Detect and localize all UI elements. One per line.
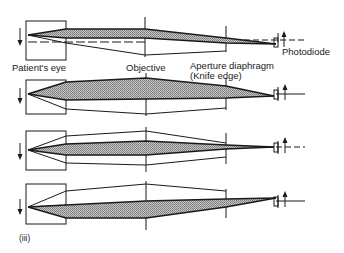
objective-label: Objective [126,63,166,73]
panel-1 [18,17,306,60]
patients-eye-label: Patient's eye [12,63,66,73]
panel-label: (iii) [19,233,30,243]
up-arrow-icon [283,191,288,197]
knife-edge-label: (Knife edge) [190,71,242,81]
down-arrow-icon [18,40,23,46]
down-arrow-icon [18,209,23,215]
panel-3 [18,127,306,172]
down-arrow-icon [18,98,23,104]
photodiode [274,38,278,47]
up-arrow-icon [282,31,287,37]
eye-box [26,184,66,224]
down-arrow-icon [18,154,23,160]
knife-edge-optics-diagram [0,0,344,253]
photodiode-label: Photodiode [282,47,330,57]
eye-box [26,21,66,60]
panel-2 [18,73,306,116]
up-arrow-icon [283,84,288,90]
panel-4 [18,181,306,230]
up-arrow-icon [283,137,288,143]
